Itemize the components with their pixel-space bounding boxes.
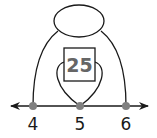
top-oval: [54, 5, 104, 37]
diagram-svg: 25 4 5 6: [0, 0, 157, 138]
tick-label-5: 5: [75, 114, 86, 134]
box-value: 25: [66, 54, 92, 76]
outer-arc-left: [33, 31, 58, 106]
diagram-canvas: 25 4 5 6: [0, 0, 157, 138]
point-6: [122, 102, 130, 110]
point-5: [76, 102, 84, 110]
point-4: [29, 102, 37, 110]
tick-label-4: 4: [28, 114, 39, 134]
outer-arc-right: [101, 31, 126, 106]
tick-label-6: 6: [121, 114, 132, 134]
